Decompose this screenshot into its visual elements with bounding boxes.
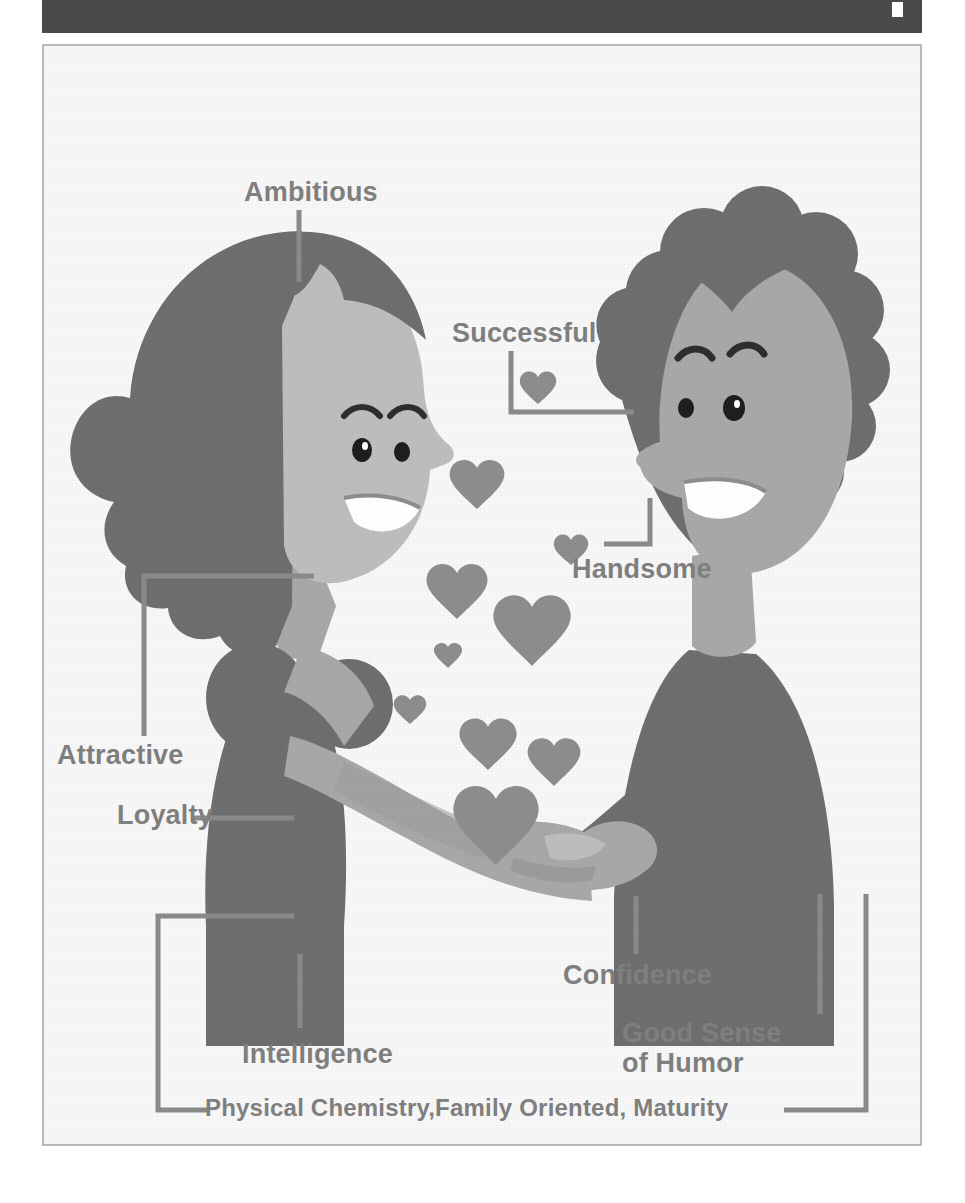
- man-eye-right-glint: [734, 400, 740, 408]
- man-eye-right: [723, 395, 745, 421]
- heart-5: [493, 595, 570, 666]
- label-humor-line1: Good Sense: [622, 1018, 782, 1048]
- woman-eye-left-glint: [362, 442, 368, 450]
- window-titlebar: [42, 0, 922, 33]
- label-handsome: Handsome: [572, 554, 712, 584]
- woman-eye-left: [352, 438, 372, 462]
- heart-1: [520, 372, 557, 404]
- label-intelligence: Intelligence: [242, 1039, 393, 1069]
- woman-hair-back: [70, 231, 302, 655]
- heart-6: [434, 643, 462, 668]
- heart-8: [459, 719, 516, 770]
- label-loyalty: Loyalty: [117, 800, 213, 830]
- label-confidence: Confidence: [563, 960, 712, 990]
- heart-2: [450, 460, 505, 509]
- screenshot-root: Ambitious Successful Handsome Attractive…: [0, 0, 965, 1203]
- label-humor-line2: of Humor: [622, 1048, 782, 1078]
- couple-illustration: [44, 46, 920, 1144]
- label-attractive: Attractive: [57, 740, 184, 770]
- heart-7: [394, 695, 427, 724]
- connector-handsome: [604, 498, 650, 544]
- illustration-panel: Ambitious Successful Handsome Attractive…: [42, 44, 922, 1146]
- label-caption: Physical Chemistry,Family Oriented, Matu…: [205, 1095, 728, 1122]
- heart-4: [426, 564, 487, 619]
- white-square-marker-icon: [892, 2, 903, 17]
- man-eye-left: [678, 398, 694, 418]
- heart-9: [528, 738, 581, 786]
- label-good-sense-of-humor: Good Sense of Humor: [622, 1018, 782, 1078]
- label-successful: Successful: [452, 318, 597, 348]
- woman-sleeve-left: [206, 643, 308, 753]
- titlebar-gutter: [42, 33, 922, 44]
- woman-eye-right: [394, 442, 410, 462]
- label-ambitious: Ambitious: [244, 177, 378, 207]
